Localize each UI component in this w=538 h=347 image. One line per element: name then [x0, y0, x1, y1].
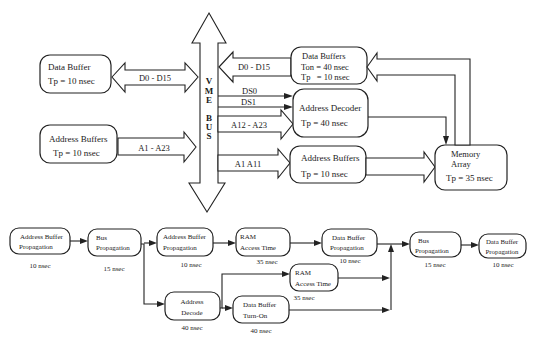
flow-node-8-line1: Data Buffer — [243, 301, 277, 309]
memory-array-title-2: Array — [451, 159, 472, 169]
left-address-buffers-title: Address Buffers — [49, 134, 108, 144]
flow-node-3-time: 10 nsec — [180, 261, 201, 269]
flow-node-3-line1: Address Buffer — [163, 233, 207, 241]
flow-arrowhead-icon — [228, 240, 236, 246]
flow-node-9-line1: Bus — [418, 237, 429, 245]
ds1-label: DS1 — [241, 97, 256, 107]
left-data-buffer-param: Tp = 10 nsec — [48, 76, 95, 86]
bus-letter-v: V — [206, 76, 213, 86]
flow-arrowhead-icon — [471, 242, 479, 248]
flow-arrowhead-icon — [388, 244, 394, 252]
bus-letter-s: S — [206, 131, 211, 141]
flow-arrowhead-icon — [225, 305, 233, 311]
address-decoder-box — [293, 89, 368, 137]
flow-node-10-line2: Propagation — [486, 248, 519, 255]
address-decoder-title: Address Decoder — [299, 103, 361, 113]
flow-node-7-time: 35 nsec — [293, 294, 314, 302]
flow-arrowhead-icon — [282, 271, 290, 277]
flow-node-6-line1: Address — [181, 298, 204, 306]
flow-node-2-line1: Bus — [96, 234, 107, 242]
flow-node-1-time: 10 nsec — [29, 262, 50, 270]
flow-node-4-time: 35 nsec — [256, 258, 277, 266]
upper-address-label: A12 - A23 — [231, 120, 267, 130]
memory-array-title-1: Memory — [451, 149, 481, 159]
flow-arrowhead-icon — [402, 241, 410, 247]
flow-node-9-line2: Propagation — [415, 247, 449, 255]
right-address-buffers-title: Address Buffers — [301, 153, 360, 163]
right-data-link-label: D0 - D15 — [238, 62, 270, 72]
flow-node-7-line1: RAM — [295, 269, 312, 277]
flow-arrowhead-icon — [382, 307, 390, 313]
flow-edge-2-6 — [141, 244, 159, 304]
ds0-arrowhead-icon — [284, 93, 293, 99]
flow-node-8-time: 40 nsec — [250, 327, 271, 335]
decoder-arrowhead-icon — [443, 136, 449, 145]
flow-arrowhead-icon — [149, 240, 157, 246]
flow-node-1-line2: Propagation — [19, 243, 53, 251]
flow-node-1-line1: Address Buffer — [20, 233, 64, 241]
ds0-label: DS0 — [242, 86, 257, 96]
right-data-buffers-tp: Tp = 10 nsec — [301, 72, 350, 82]
flow-node-4-line2: Access Time — [240, 244, 276, 252]
memory-array-param: Tp = 35 nsec — [446, 173, 493, 183]
bus-letter-e: E — [206, 95, 212, 105]
flow-arrowhead-icon — [382, 275, 390, 281]
flow-arrowhead-icon — [157, 301, 165, 307]
flow-node-4-line1: RAM — [240, 233, 257, 241]
decoder-to-memory-line — [368, 117, 446, 137]
flow-node-5-line2: Propagation — [330, 244, 364, 252]
flow-node-3-line2: Propagation — [163, 244, 197, 252]
flow-node-10-line1: Data Buffer — [486, 238, 519, 245]
left-address-link-label: A1 - A23 — [138, 143, 170, 153]
address-decoder-param: Tp = 40 nsec — [301, 118, 348, 128]
flow-node-7-line2: Access Time — [295, 280, 331, 288]
left-data-buffer-box — [40, 55, 111, 93]
diagram-canvas: V M E B U S Data Buffer Tp = 10 nsec D0 … — [0, 0, 538, 347]
flow-arrowhead-icon — [314, 240, 322, 246]
flow-node-6-line2: Decode — [181, 309, 202, 317]
flow-arrowhead-icon — [80, 238, 88, 244]
left-data-link-label: D0 - D15 — [139, 73, 171, 83]
flow-node-5-time: 10 nsec — [339, 257, 360, 265]
buffers-to-memory-arrow — [366, 152, 435, 182]
flow-node-10-time: 10 nsec — [492, 261, 513, 269]
right-address-buffers-param: Tp = 10 nsec — [301, 169, 348, 179]
memory-to-data-buffers-arrow — [367, 53, 470, 145]
flow-node-2-time: 15 nsec — [103, 265, 124, 273]
flow-node-2-line2: Propagation — [96, 244, 130, 252]
lower-address-label: A1 A11 — [235, 159, 261, 169]
left-data-buffer-title: Data Buffer — [48, 62, 91, 72]
ds1-arrowhead-icon — [284, 104, 293, 110]
flow-node-9-time: 15 nsec — [424, 261, 445, 269]
flow-node-8-line2: Turn-On — [243, 312, 268, 320]
right-data-buffers-title: Data Buffers — [302, 51, 346, 61]
flow-node-6-time: 40 nsec — [181, 324, 202, 332]
flow-node-5-line1: Data Buffer — [332, 234, 366, 242]
left-address-buffers-param: Tp = 10 nsec — [53, 148, 100, 158]
right-data-buffers-ton: Ton = 40 nsec — [301, 62, 349, 72]
